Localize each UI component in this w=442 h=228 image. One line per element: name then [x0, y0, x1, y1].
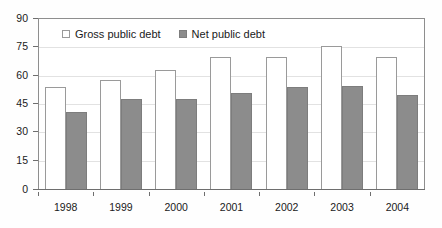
y-tick-label: 45: [16, 97, 28, 109]
plot-area: [38, 18, 425, 190]
x-tick-label: 2004: [386, 192, 409, 216]
y-tick-label: 75: [16, 40, 28, 52]
bar-group: [149, 18, 204, 190]
x-tick-mark: [204, 192, 205, 196]
y-tick-label: 0: [22, 183, 28, 195]
filled-square-icon: [179, 30, 187, 38]
legend-label: Gross public debt: [75, 28, 161, 40]
x-tick-mark: [93, 192, 94, 196]
x-tick-label: 2000: [165, 192, 188, 216]
bar-gross-public-debt[interactable]: [100, 80, 121, 190]
x-tick: 1999: [93, 192, 148, 216]
x-tick-label: 2001: [220, 192, 243, 216]
x-tick: 2004: [370, 192, 425, 216]
x-axis-baseline: [38, 189, 425, 190]
y-tick-label: 15: [16, 154, 28, 166]
x-tick-mark: [149, 192, 150, 196]
bar-group: [38, 18, 93, 190]
bar-net-public-debt[interactable]: [121, 99, 142, 190]
bar-net-public-debt[interactable]: [231, 93, 252, 190]
bar-group: [204, 18, 259, 190]
bar-gross-public-debt[interactable]: [210, 57, 231, 190]
bar-net-public-debt[interactable]: [66, 112, 87, 190]
bar-gross-public-debt[interactable]: [321, 46, 342, 190]
bar-net-public-debt[interactable]: [176, 99, 197, 190]
x-tick-label: 2003: [330, 192, 353, 216]
legend: Gross public debt Net public debt: [62, 28, 265, 40]
bar-net-public-debt[interactable]: [342, 86, 363, 191]
hollow-square-icon: [62, 30, 70, 38]
x-tick-mark: [370, 192, 371, 196]
bar-group: [259, 18, 314, 190]
bar-gross-public-debt[interactable]: [155, 70, 176, 190]
legend-item-net-public-debt[interactable]: Net public debt: [179, 28, 265, 40]
y-axis: 90 75 60 45 30 15 0: [0, 18, 34, 190]
x-tick-label: 2002: [275, 192, 298, 216]
bar-gross-public-debt[interactable]: [266, 57, 287, 190]
bar-group: [314, 18, 369, 190]
bar-gross-public-debt[interactable]: [45, 87, 66, 190]
x-tick: 2003: [314, 192, 369, 216]
bar-group: [370, 18, 425, 190]
bar-net-public-debt[interactable]: [397, 95, 418, 190]
x-tick-label: 1998: [54, 192, 77, 216]
bar-net-public-debt[interactable]: [287, 87, 308, 190]
x-tick: 1998: [38, 192, 93, 216]
x-tick: 2002: [259, 192, 314, 216]
y-tick-label: 30: [16, 125, 28, 137]
x-tick: 2000: [149, 192, 204, 216]
legend-label: Net public debt: [192, 28, 265, 40]
bar-gross-public-debt[interactable]: [376, 57, 397, 190]
y-tick-label: 60: [16, 69, 28, 81]
bar-chart: 90 75 60 45 30 15 0: [0, 0, 442, 228]
bar-group: [93, 18, 148, 190]
x-tick-mark: [259, 192, 260, 196]
x-tick-mark: [38, 192, 39, 196]
x-tick-mark: [314, 192, 315, 196]
y-tick-label: 90: [16, 12, 28, 24]
x-tick: 2001: [204, 192, 259, 216]
x-axis: 1998 1999 2000 2001 2002 2003 2004: [38, 192, 425, 216]
legend-item-gross-public-debt[interactable]: Gross public debt: [62, 28, 161, 40]
x-tick-label: 1999: [109, 192, 132, 216]
